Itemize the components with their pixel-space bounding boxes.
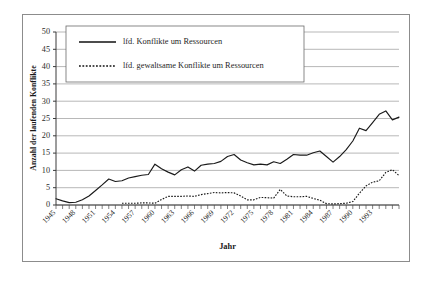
x-tick-label: 1981 xyxy=(278,208,295,225)
x-tick-label: 1951 xyxy=(80,208,97,225)
x-tick-label: 1984 xyxy=(298,208,315,225)
x-tick-label: 1954 xyxy=(100,208,117,225)
y-tick-label: 15 xyxy=(42,148,50,157)
x-tick-label: 1948 xyxy=(60,208,77,225)
y-tick-label: 50 xyxy=(42,27,50,36)
legend-label-1: lfd. Konflikte um Ressourcen xyxy=(123,37,223,46)
y-tick-label: 35 xyxy=(42,79,50,88)
x-tick-label: 1963 xyxy=(159,208,176,225)
y-axis-title: Anzahl der laufenden Konflikte xyxy=(29,65,38,171)
y-tick-label: 0 xyxy=(46,200,50,209)
x-tick-label: 1945 xyxy=(40,208,57,225)
x-tick-label: 1987 xyxy=(317,208,334,225)
x-tick-label: 1966 xyxy=(179,208,196,225)
y-tick-label: 20 xyxy=(42,131,50,140)
series-line-2 xyxy=(122,170,399,204)
x-tick-label: 1960 xyxy=(139,208,156,225)
x-tick-label: 1978 xyxy=(258,208,275,225)
x-tick-label: 1975 xyxy=(238,208,255,225)
legend-box xyxy=(66,26,304,82)
y-tick-label: 40 xyxy=(42,62,50,71)
y-tick-label: 30 xyxy=(42,97,50,106)
y-tick-label: 25 xyxy=(42,114,50,123)
x-tick-label: 1990 xyxy=(337,208,354,225)
y-tick-label: 45 xyxy=(42,45,50,54)
line-chart: 0510152025303540455019451948195119541957… xyxy=(0,0,433,282)
x-tick-label: 1972 xyxy=(218,208,235,225)
chart-figure: 0510152025303540455019451948195119541957… xyxy=(0,0,433,282)
x-axis-title: Jahr xyxy=(219,242,236,251)
x-tick-label: 1957 xyxy=(119,208,136,225)
x-tick-label: 1969 xyxy=(199,208,216,225)
y-tick-label: 10 xyxy=(42,166,50,175)
legend-label-2: lfd. gewaltsame Konflikte um Ressourcen xyxy=(123,61,265,70)
y-tick-label: 5 xyxy=(46,183,50,192)
series-line-1 xyxy=(56,111,399,203)
x-tick-label: 1993 xyxy=(357,208,374,225)
